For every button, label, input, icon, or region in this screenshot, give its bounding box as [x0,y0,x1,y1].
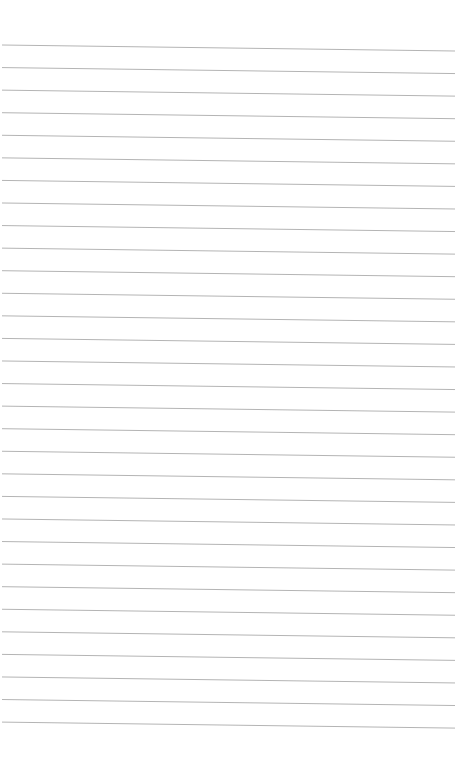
ruled-line [2,338,455,344]
ruled-line [2,45,455,51]
ruled-line [2,609,455,615]
ruled-line [2,496,455,502]
ruled-line [2,632,455,638]
ruled-line [2,406,455,412]
ruled-line [2,158,455,164]
ruled-line [2,248,455,254]
ruled-line [2,654,455,660]
ruled-line [2,180,455,186]
ruled-line [2,203,455,209]
ruled-line [2,90,455,96]
lined-paper-page [0,0,457,777]
ruled-line [2,361,455,367]
ruled-line [2,451,455,457]
ruled-line [2,113,455,119]
ruled-line [2,293,455,299]
ruled-line [2,722,455,728]
ruled-line [2,677,455,683]
ruled-line [2,700,455,706]
ruled-line [2,226,455,232]
ruled-line [2,271,455,277]
ruled-line [2,564,455,570]
ruled-line [2,135,455,141]
ruled-line [2,587,455,593]
ruled-line [2,384,455,390]
ruled-lines [0,0,457,777]
ruled-line [2,519,455,525]
ruled-line [2,316,455,322]
ruled-line [2,542,455,548]
ruled-line [2,429,455,435]
ruled-line [2,474,455,480]
ruled-line [2,68,455,74]
